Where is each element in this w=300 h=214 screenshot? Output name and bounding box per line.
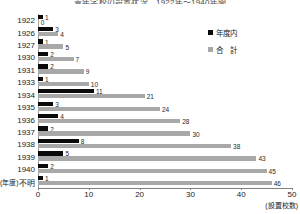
bar-total: 4: [38, 32, 58, 36]
bar-value-label: 0: [41, 18, 45, 25]
bar-inner: 1: [38, 39, 43, 43]
bar-value-label: 38: [233, 143, 240, 150]
category-label: 1940: [17, 165, 35, 174]
category-label: 1931: [17, 65, 35, 74]
x-axis-unit-label: (設置校数): [265, 200, 298, 210]
category-label: 1938: [17, 140, 35, 149]
bar-total: 21: [38, 94, 145, 98]
legend-swatch-total: [208, 47, 213, 52]
chart-row: 193129: [38, 64, 292, 76]
chart-row: 193027: [38, 51, 292, 63]
bar-inner: 2: [38, 52, 48, 56]
bar-inner: 1: [38, 176, 43, 180]
plot-area: 1922101926341927151930271931291933110193…: [38, 14, 292, 188]
bar-total: 46: [38, 181, 272, 185]
x-tick-label: 50: [288, 190, 297, 199]
x-tick-label: 40: [237, 190, 246, 199]
x-tick-label: 20: [135, 190, 144, 199]
bar-inner: 11: [38, 89, 94, 93]
bar-total: 24: [38, 107, 160, 111]
bar-total: 28: [38, 119, 180, 123]
chart-row: 1938838: [38, 138, 292, 150]
category-label: 1927: [17, 41, 35, 50]
x-axis-line: [38, 188, 292, 189]
bar-total: 45: [38, 169, 267, 173]
category-label: 1937: [17, 128, 35, 137]
chart-row: 1933110: [38, 76, 292, 88]
category-label: 1934: [17, 90, 35, 99]
category-label: 1939: [17, 152, 35, 161]
category-label: 1926: [17, 28, 35, 37]
legend-label: 合 計: [216, 44, 237, 55]
bar-value-label: 9: [86, 68, 90, 75]
bar-total: 5: [38, 44, 63, 48]
bar-inner: 5: [38, 151, 63, 155]
legend-item: 年度内: [208, 27, 237, 38]
category-label: 1930: [17, 53, 35, 62]
bar-value-label: 43: [258, 155, 265, 162]
legend-swatch-inner: [208, 30, 213, 35]
chart-row: 192634: [38, 26, 292, 38]
bar-total: 43: [38, 156, 256, 160]
chart-row: 192715: [38, 39, 292, 51]
chart-row: 1939543: [38, 151, 292, 163]
x-tick-label: 30: [186, 190, 195, 199]
bar-total: 10: [38, 82, 89, 86]
bar-total: 38: [38, 144, 231, 148]
bar-inner: 2: [38, 126, 48, 130]
bar-total: 9: [38, 69, 84, 73]
x-tick-label: 0: [36, 190, 40, 199]
y-axis-unit-label: (年度): [0, 177, 19, 187]
chart-row: 192210: [38, 14, 292, 26]
bar-inner: 3: [38, 102, 53, 106]
chart-row: 1937230: [38, 126, 292, 138]
category-label: 1922: [17, 16, 35, 25]
legend-item: 合 計: [208, 44, 237, 55]
chart-row: 不明146: [38, 176, 292, 188]
bar-value-label: 21: [147, 93, 154, 100]
chart-row: 19341121: [38, 89, 292, 101]
bar-inner: 1: [38, 77, 43, 81]
chart-row: 1935324: [38, 101, 292, 113]
legend-label: 年度内: [216, 27, 237, 38]
bar-value-label: 7: [76, 56, 80, 63]
category-label: 1933: [17, 78, 35, 87]
bar-inner: 4: [38, 114, 58, 118]
x-tick-label: 10: [84, 190, 93, 199]
chart-row: 1936428: [38, 113, 292, 125]
category-label: 不明: [19, 176, 35, 187]
bar-total: 7: [38, 57, 74, 61]
bar-total: 0: [38, 20, 39, 24]
bar-value-label: 24: [162, 105, 169, 112]
bar-value-label: 28: [182, 118, 189, 125]
bar-chart: 青年学校の設置状況 1922年〜1940年間 19221019263419271…: [0, 0, 300, 214]
bar-value-label: 30: [192, 130, 199, 137]
chart-title: 青年学校の設置状況 1922年〜1940年間: [0, 0, 300, 4]
bar-inner: 3: [38, 27, 53, 31]
category-label: 1936: [17, 115, 35, 124]
bar-value-label: 46: [274, 180, 281, 187]
bar-value-label: 10: [91, 80, 98, 87]
bar-value-label: 45: [269, 167, 276, 174]
bar-value-label: 5: [65, 43, 69, 50]
bar-inner: 8: [38, 139, 79, 143]
bar-value-label: 1: [45, 13, 49, 20]
category-label: 1935: [17, 103, 35, 112]
bar-inner: 2: [38, 64, 48, 68]
chart-row: 1940245: [38, 163, 292, 175]
bar-inner: 2: [38, 164, 48, 168]
bar-total: 30: [38, 131, 190, 135]
chart-legend: 年度内合 計: [208, 27, 237, 61]
bar-value-label: 4: [60, 31, 64, 38]
